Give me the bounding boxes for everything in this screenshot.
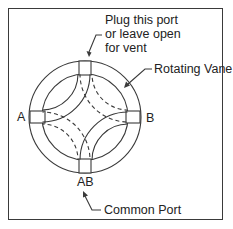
leader-rotating-vane [124,69,152,88]
outer-housing-circle [29,61,141,173]
common-port-label: Common Port [104,203,181,217]
port-ab-label: AB [77,175,94,189]
rotating-vane-label: Rotating Vane [154,62,232,76]
port-ab-common [79,159,91,173]
port-b-label: B [146,111,154,125]
port-top-vent [79,61,91,75]
leader-plug-port [87,35,103,57]
inner-rotor-circle [42,74,128,160]
plug-port-label: Plug this port or leave open for vent [105,13,181,55]
port-b [126,111,140,123]
port-a-label: A [17,110,25,124]
port-a [30,111,45,123]
leader-common-port [83,191,101,210]
